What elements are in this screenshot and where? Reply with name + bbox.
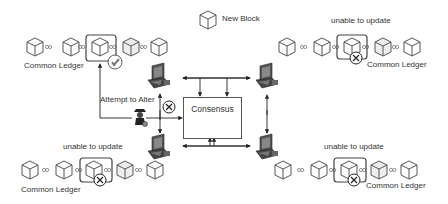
ledger-top-right-status: unable to update [331, 16, 391, 25]
ledger-bottom-right-status: unable to update [324, 142, 384, 151]
consensus-box: Consensus [183, 97, 242, 139]
legend-new-block-label: New Block [222, 14, 260, 23]
ledger-top-right-label: Common Ledger [367, 60, 427, 69]
ledger-top-left-label: Common Ledger [24, 61, 84, 70]
attempt-to-alter-label: Attempt to Alter [100, 95, 155, 104]
cross-icon [163, 101, 175, 113]
computer-icon [148, 134, 170, 159]
check-icon [108, 55, 122, 69]
ledger-bottom-right-label: Common Ledger [366, 181, 426, 190]
ledger-bottom-left-status: unable to update [63, 142, 123, 151]
computer-icon [148, 63, 170, 88]
cross-icon [348, 174, 360, 186]
cross-icon [94, 174, 106, 186]
computer-icon [256, 134, 278, 159]
ledger-bottom-left [22, 158, 163, 186]
ledger-bottom-left-label: Common Ledger [21, 185, 81, 194]
consensus-label: Consensus [184, 104, 241, 114]
spy-icon [134, 109, 148, 127]
computer-icon [256, 63, 278, 88]
legend-cube-icon [200, 11, 216, 29]
cross-icon [350, 52, 362, 64]
